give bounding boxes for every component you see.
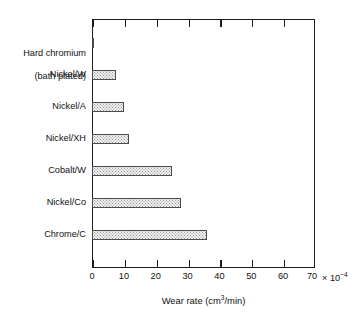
xtick-label-40: 40 [214, 271, 224, 281]
xtick-label-0: 0 [89, 271, 94, 281]
bar-hard-chromium [92, 38, 94, 48]
category-label-nickel-co: Nickel/Co [47, 197, 86, 209]
bar-nickel-w [92, 70, 116, 80]
bar-nickel-co [92, 198, 181, 208]
xtick-label-10: 10 [119, 271, 129, 281]
bar-nickel-xh [92, 134, 129, 144]
category-label-nickel-w: Nickel/W [50, 69, 86, 81]
x-axis-title-main: Wear rate (cm [162, 295, 221, 306]
bars-layer [92, 19, 315, 268]
category-label-chrome-c: Chrome/C [44, 229, 86, 241]
category-label-cobalt-w: Cobalt/W [48, 165, 86, 177]
xtick-label-70: 70 [307, 271, 317, 281]
category-label-line1: Hard chromium [23, 48, 86, 58]
x-multiplier-base: × 10 [322, 273, 340, 283]
bar-nickel-a [92, 102, 124, 112]
category-label-nickel-a: Nickel/A [52, 101, 86, 113]
category-label-hard-chromium: Hard chromium (bath plated) [13, 36, 86, 94]
xtick-label-20: 20 [151, 271, 161, 281]
x-axis-title-tail: /min) [225, 295, 246, 306]
x-axis-multiplier: × 10−4 [322, 271, 348, 283]
bar-cobalt-w [92, 166, 172, 176]
category-label-nickel-xh: Nickel/XH [46, 133, 86, 145]
x-axis-title: Wear rate (cm3/min) [92, 294, 315, 306]
xtick-label-60: 60 [278, 271, 288, 281]
x-multiplier-exponent: −4 [340, 271, 348, 278]
xtick-label-30: 30 [182, 271, 192, 281]
wear-rate-bar-chart: Hard chromium (bath plated) Nickel/W Nic… [0, 0, 354, 321]
bar-chrome-c [92, 230, 207, 240]
xtick-label-50: 50 [246, 271, 256, 281]
